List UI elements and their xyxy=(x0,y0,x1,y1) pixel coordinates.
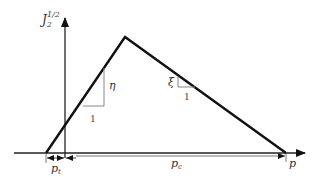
pt-label: pt xyxy=(51,162,61,176)
xi-run-label: 1 xyxy=(184,90,190,102)
x-axis-label: p xyxy=(289,157,296,170)
yield-surface-line xyxy=(46,37,286,153)
eta-run-label: 1 xyxy=(90,112,96,124)
xi-label: ξ xyxy=(168,76,175,89)
eta-label: η xyxy=(109,79,116,92)
pc-label: pc xyxy=(171,157,182,171)
y-axis-label: J21/2 xyxy=(39,10,60,29)
yield-diagram: J21/2 η 1 ξ 1 pt pc p xyxy=(0,0,319,177)
